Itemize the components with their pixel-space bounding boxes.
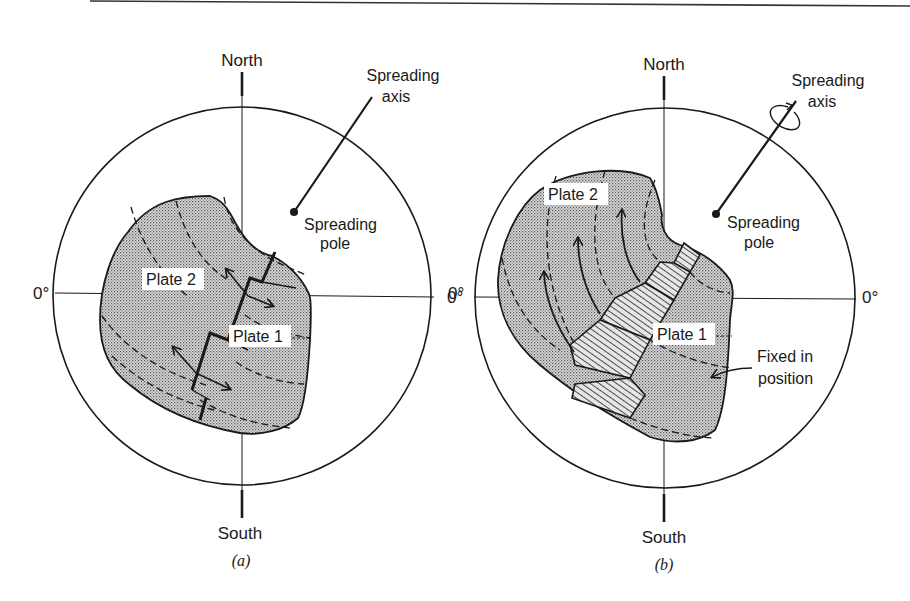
- south-label: South: [218, 524, 262, 543]
- spreading-axis-label-2: axis: [382, 88, 410, 105]
- plate-2-label: Plate 2: [146, 271, 196, 288]
- meridian-0-left-label: 0°: [447, 288, 463, 307]
- panel-b-caption: (b): [655, 556, 674, 574]
- panel-a: Plate 2 Plate 1 North South 0° 0° Spread…: [33, 51, 464, 570]
- spreading-pole-label: Spreading: [304, 216, 377, 233]
- north-label: North: [221, 51, 263, 70]
- south-label: South: [642, 528, 686, 547]
- meridian-0-left-label: 0°: [33, 284, 49, 303]
- spreading-axis-label: Spreading: [367, 67, 440, 84]
- spreading-pole-label: Spreading: [727, 214, 800, 231]
- spreading-pole-dot: [712, 210, 720, 218]
- fixed-in-position-label-2: position: [758, 370, 813, 387]
- spreading-axis-label: Spreading: [792, 72, 865, 89]
- plate-2-label: Plate 2: [548, 186, 598, 203]
- top-rule: [90, 1, 910, 6]
- plate-1-label: Plate 1: [657, 326, 707, 343]
- spreading-pole-label-2: pole: [320, 235, 350, 252]
- north-label: North: [643, 55, 685, 74]
- fixed-in-position-label: Fixed in: [757, 348, 813, 365]
- spreading-axis-line: [294, 97, 372, 212]
- spreading-pole-dot: [290, 208, 298, 216]
- panel-a-caption: (a): [232, 552, 251, 570]
- spreading-pole-label-2: pole: [744, 234, 774, 251]
- panel-b: Plate 2 Plate 1 Fixed in position North …: [447, 55, 878, 574]
- plate-1-label: Plate 1: [233, 328, 283, 345]
- meridian-0-right-label: 0°: [862, 288, 878, 307]
- plate-spreading-figure: Plate 2 Plate 1 North South 0° 0° Spread…: [0, 0, 910, 601]
- spreading-axis-label-2: axis: [808, 93, 836, 110]
